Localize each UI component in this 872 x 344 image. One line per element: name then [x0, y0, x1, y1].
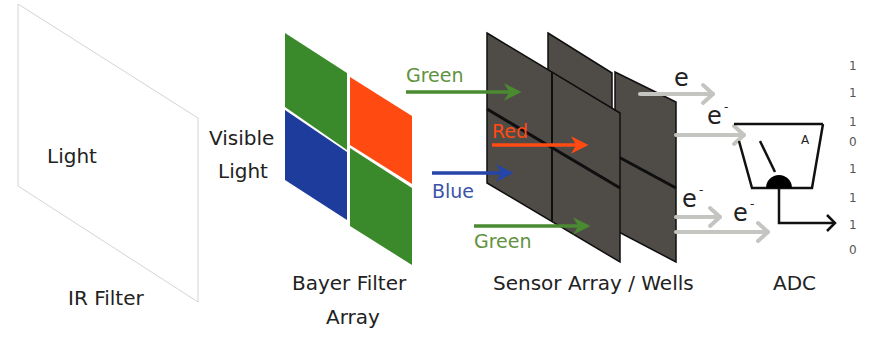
- bit-0: 1: [849, 59, 857, 73]
- bit-7: 0: [849, 243, 857, 257]
- electron-charge-3: -: [699, 183, 703, 197]
- channel-label-red: Red: [492, 120, 528, 142]
- ir-filter-panel: [18, 4, 198, 302]
- digital-output-bits: 1 1 1 0 1 1 1 0: [849, 59, 857, 257]
- bit-4: 1: [849, 162, 857, 176]
- light-label: Light: [47, 144, 97, 168]
- adc-pivot: [766, 175, 792, 188]
- visible-light-label: Visible Light: [209, 126, 274, 183]
- image-sensor-pipeline-diagram: Light IR Filter Visible Light Bayer Filt…: [0, 0, 872, 344]
- electron-label-4: e: [733, 199, 748, 227]
- bit-2: 1: [849, 115, 857, 129]
- ir-filter-label: IR Filter: [68, 286, 144, 310]
- visible-light-line1: Visible: [209, 126, 274, 150]
- electron-charge-4: -: [750, 197, 754, 211]
- bayer-label-line1: Bayer Filter: [292, 271, 407, 295]
- adc-meter-label: A: [801, 133, 810, 147]
- bit-3: 0: [849, 135, 857, 149]
- bayer-label-line2: Array: [326, 305, 380, 329]
- visible-light-line2: Light: [218, 159, 268, 183]
- adc-label: ADC: [773, 271, 816, 295]
- sensor-panel-back: [615, 72, 676, 262]
- sensor-array-label: Sensor Array / Wells: [493, 271, 694, 295]
- electron-label-3: e: [682, 185, 697, 213]
- adc-output-wire: [779, 188, 835, 223]
- electron-label-1: e: [674, 64, 689, 92]
- adc-needle: [760, 141, 775, 172]
- bit-5: 1: [849, 191, 857, 205]
- ir-filter: Light IR Filter: [18, 4, 198, 310]
- bit-6: 1: [849, 218, 857, 232]
- sensor-array: Sensor Array / Wells: [487, 33, 694, 295]
- bit-1: 1: [849, 86, 857, 100]
- electron-label-2: e: [707, 102, 722, 130]
- electron-charge-2: -: [724, 100, 728, 114]
- channel-label-green-top: Green: [406, 64, 464, 86]
- channel-label-green-bottom: Green: [474, 230, 532, 252]
- bayer-filter-array: Bayer Filter Array: [285, 33, 412, 329]
- channel-label-blue: Blue: [432, 180, 474, 202]
